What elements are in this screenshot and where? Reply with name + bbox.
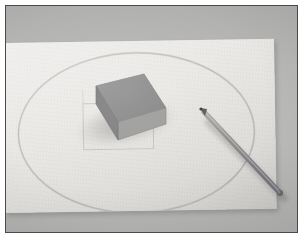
grey-block: [72, 72, 168, 148]
photograph-scene: A photograph of a rectangular grey block…: [0, 0, 304, 249]
pencil: [192, 102, 288, 202]
photo-frame: [5, 5, 298, 233]
pencil-lead: [199, 107, 202, 110]
image-caption: A photograph of a rectangular grey block…: [0, 0, 1, 1]
